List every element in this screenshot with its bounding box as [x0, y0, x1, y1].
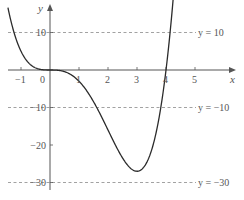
x-tick-label: 4	[163, 74, 168, 85]
x-tick-label: 1	[76, 74, 81, 85]
y-axis-arrow-icon	[47, 4, 53, 11]
x-axis-label: x	[229, 73, 235, 85]
x-tick-label: 5	[192, 74, 197, 85]
x-tick-label: 0	[40, 74, 45, 85]
y-tick-label: −10	[30, 102, 46, 113]
y-tick-label: −30	[30, 177, 46, 188]
x-tick-label: −1	[15, 74, 26, 85]
y-tick-label: −20	[30, 140, 46, 151]
y-axis-label: y	[37, 2, 43, 14]
reference-line-label: y = −10	[198, 102, 229, 113]
x-tick-label: 3	[134, 74, 139, 85]
y-tick-label: 10	[36, 27, 46, 38]
reference-line-label: y = −30	[198, 177, 229, 188]
labels: y = 10y = −10y = −30−101234510−10−20−30y…	[15, 2, 235, 188]
function-graph: y = 10y = −10y = −30−101234510−10−20−30y…	[0, 0, 244, 200]
reference-line-label: y = 10	[198, 27, 224, 38]
x-tick-label: 2	[105, 74, 110, 85]
